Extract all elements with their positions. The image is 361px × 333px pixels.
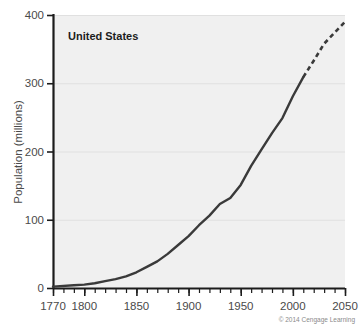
x-tick-label: 1770 <box>40 300 66 312</box>
x-tick-label: 1850 <box>124 300 150 312</box>
series-label: United States <box>68 30 138 42</box>
population-line-chart: 0100200300400 17701800185019001950200020… <box>0 0 361 333</box>
x-tick-label: 2050 <box>332 300 358 312</box>
y-tick-label: 200 <box>25 146 44 158</box>
y-tick-label: 400 <box>25 9 44 21</box>
y-axis-tick-labels: 0100200300400 <box>25 9 44 294</box>
figure-container: 0100200300400 17701800185019001950200020… <box>0 0 361 333</box>
x-tick-label: 1950 <box>228 300 254 312</box>
x-axis-tick-labels: 1770180018501900195020002050 <box>40 300 358 312</box>
x-tick-label: 2000 <box>280 300 306 312</box>
y-tick-label: 300 <box>25 77 44 89</box>
y-tick-label: 0 <box>38 282 44 294</box>
y-axis-title: Population (millions) <box>12 100 24 204</box>
x-tick-label: 1800 <box>71 300 97 312</box>
copyright-notice: © 2014 Cengage Learning <box>279 316 356 324</box>
x-tick-label: 1900 <box>176 300 202 312</box>
y-tick-label: 100 <box>25 214 44 226</box>
y-axis-ticks <box>47 16 53 289</box>
